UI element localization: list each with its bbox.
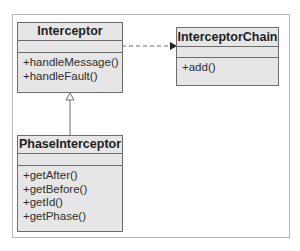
operation: +handleMessage() xyxy=(23,56,122,70)
attributes-compartment xyxy=(18,41,122,53)
operation: +getBefore() xyxy=(23,183,122,197)
generalization-triangle-icon xyxy=(66,93,74,100)
attributes-compartment xyxy=(18,154,122,166)
operations-compartment: +getAfter() +getBefore() +getId() +getPh… xyxy=(18,166,122,223)
operation: +getPhase() xyxy=(23,210,122,224)
operation: +handleFault() xyxy=(23,70,122,84)
class-interceptor-chain: InterceptorChain +add() xyxy=(176,27,279,86)
operations-compartment: +handleMessage() +handleFault() xyxy=(18,53,122,83)
operation: +getId() xyxy=(23,196,122,210)
class-name: PhaseInterceptor xyxy=(18,136,122,154)
class-interceptor: Interceptor +handleMessage() +handleFaul… xyxy=(17,22,123,93)
class-name: InterceptorChain xyxy=(177,28,278,47)
class-name: Interceptor xyxy=(18,23,122,41)
operation: +getAfter() xyxy=(23,169,122,183)
operations-compartment: +add() xyxy=(177,58,278,75)
class-phase-interceptor: PhaseInterceptor +getAfter() +getBefore(… xyxy=(17,135,123,232)
attributes-compartment xyxy=(177,47,278,58)
operation: +add() xyxy=(182,61,278,75)
